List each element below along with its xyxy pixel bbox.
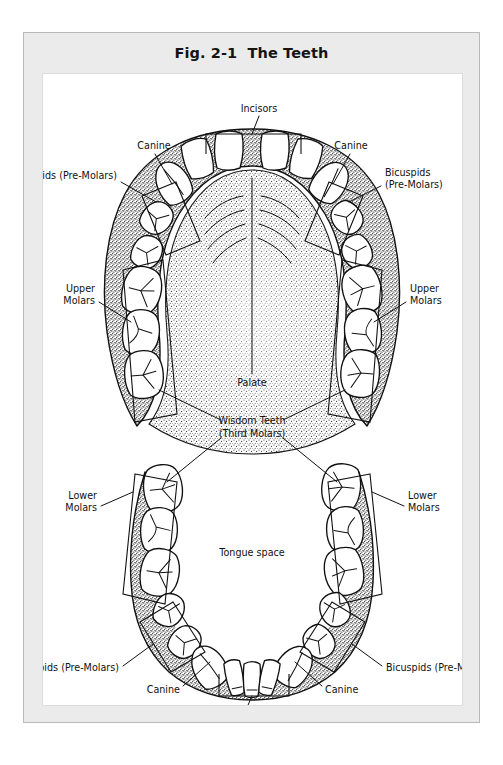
palate-label: Palate — [237, 377, 267, 388]
incisors-top-label: Incisors — [241, 103, 278, 114]
figure-title: Fig. 2-1 The Teeth — [175, 45, 329, 61]
teeth-diagram: Palate — [43, 74, 462, 705]
lower-incisor — [243, 662, 260, 698]
bicuspids-lower-left-label: Bicuspids (Pre-Molars) — [43, 662, 119, 673]
wisdom-teeth-label-2: (Third Molars) — [219, 428, 286, 439]
bicuspids-upper-right-label-2: (Pre-Molars) — [385, 179, 443, 190]
upper-arch: Palate — [104, 129, 399, 454]
lower-molars-left-label-2: Molars — [65, 502, 97, 513]
upper-incisor — [261, 131, 289, 170]
canine-upper-left-label: Canine — [137, 140, 170, 151]
bicuspids-upper-left-label: Bicuspids (Pre-Molars) — [43, 170, 117, 181]
upper-molars-right-label-1: Upper — [410, 283, 439, 294]
figure-page: Fig. 2-1 The Teeth — [0, 0, 503, 765]
lower-molars-right-label-1: Lower — [408, 490, 437, 501]
upper-molars-left-label-2: Molars — [63, 295, 95, 306]
lower-molars-left-label-1: Lower — [68, 490, 97, 501]
bicuspids-lower-right-label: Bicuspids (Pre-Molars) — [386, 662, 462, 673]
lower-molar-wisdom — [141, 463, 184, 515]
figure-frame: Fig. 2-1 The Teeth — [23, 32, 480, 723]
figure-canvas: Palate — [42, 73, 463, 706]
lower-molars-right-label-2: Molars — [408, 502, 440, 513]
bicuspids-upper-right-label-1: Bicuspids — [385, 167, 430, 178]
upper-molars-right-label-2: Molars — [410, 295, 442, 306]
lower-teeth-right — [257, 462, 367, 697]
canine-lower-right-label: Canine — [325, 684, 358, 695]
upper-incisor — [215, 131, 243, 170]
figure-titlebar: Fig. 2-1 The Teeth — [24, 33, 479, 73]
canine-lower-left-label: Canine — [147, 684, 180, 695]
canine-upper-right-label: Canine — [334, 140, 367, 151]
tongue-space-label: Tongue space — [218, 547, 285, 558]
upper-molars-left-label-1: Upper — [66, 283, 95, 294]
wisdom-teeth-label-1: Wisdom Teeth — [218, 415, 285, 426]
